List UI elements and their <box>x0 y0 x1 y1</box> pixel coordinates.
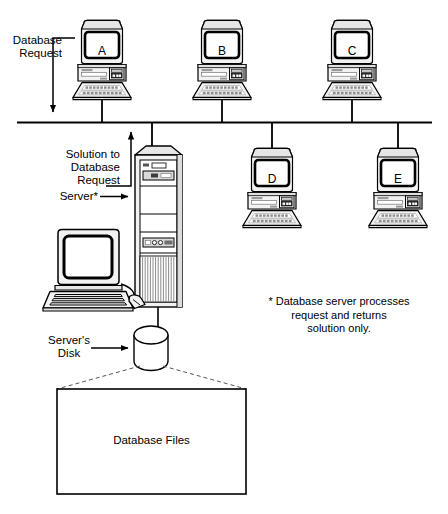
screen-letter-b: B <box>202 44 242 58</box>
screen-letter-c: C <box>332 44 372 58</box>
server-label: Server* <box>50 190 98 203</box>
workstation-a[interactable] <box>73 20 131 99</box>
expansion-line-right <box>163 366 246 389</box>
server-console[interactable] <box>43 229 145 311</box>
workstation-b[interactable] <box>193 20 251 99</box>
workstation-e[interactable] <box>369 148 427 227</box>
database-request-label: Database Request <box>4 34 62 60</box>
footnote-text: * Database server processes request and … <box>244 295 434 336</box>
workstation-c[interactable] <box>323 20 381 99</box>
solution-to-database-request-label: Solution to Database Request <box>50 148 120 187</box>
workstation-d[interactable] <box>243 148 301 227</box>
servers-disk[interactable] <box>134 326 168 371</box>
screen-letter-d: D <box>252 172 292 186</box>
database-files-label: Database Files <box>57 434 246 446</box>
expansion-line-left <box>57 366 140 389</box>
screen-letter-e: E <box>378 172 418 186</box>
server-tower[interactable] <box>135 146 182 307</box>
screen-letter-a: A <box>82 44 122 58</box>
network-diagram-canvas: Database Request Solution to Database Re… <box>0 0 448 514</box>
servers-disk-label: Server's Disk <box>48 334 90 360</box>
